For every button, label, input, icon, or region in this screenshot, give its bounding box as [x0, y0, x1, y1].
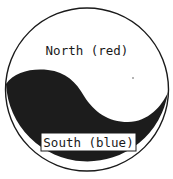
south-label: South (blue) [43, 135, 133, 150]
speck-mark [132, 77, 134, 79]
north-label: North (red) [46, 43, 129, 58]
yin-yang-diagram: North (red) South (blue) [0, 0, 173, 179]
